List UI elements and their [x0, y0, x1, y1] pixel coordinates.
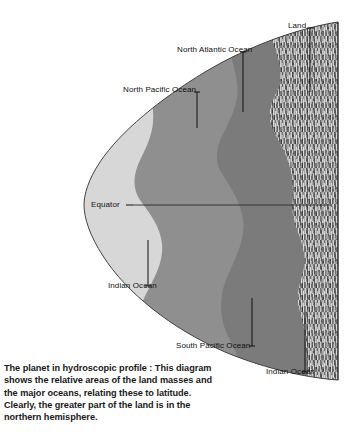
label-north-pacific-ocean: North Pacific Ocean: [123, 85, 196, 94]
label-south-pacific-ocean: South Pacific Ocean: [176, 341, 250, 350]
label-equator: Equator: [91, 200, 120, 209]
hydroscopic-profile-figure: Land North Atlantic Ocean North Pacific …: [0, 0, 360, 437]
figure-caption: The planet in hydroscopic profile : This…: [4, 362, 214, 423]
label-indian-ocean-south: Indian Ocean: [266, 367, 315, 376]
label-indian-ocean-north: Indian Ocean: [108, 281, 157, 290]
label-north-atlantic-ocean: North Atlantic Ocean: [177, 45, 252, 54]
label-land: Land: [288, 21, 306, 30]
